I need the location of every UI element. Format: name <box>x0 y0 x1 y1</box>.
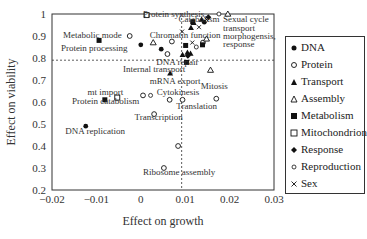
protein-point <box>127 34 132 39</box>
y-tick-label: 0.8 <box>32 52 46 64</box>
protein-point <box>141 93 146 98</box>
y-tick-label: 0.7 <box>32 74 46 86</box>
x-tick-label: 0 <box>138 193 144 205</box>
open-square-icon <box>290 129 298 137</box>
legend-item-mitochondrion: Mitochondrion <box>290 126 367 138</box>
y-tick-label: 0.3 <box>32 162 46 174</box>
dna-point <box>159 47 164 52</box>
protein-point <box>167 97 172 102</box>
sex-point <box>190 41 194 45</box>
assembly-point <box>150 40 156 45</box>
open-circle-icon <box>290 61 298 69</box>
x-tick-label: 0.01 <box>176 193 195 205</box>
metabolism-point <box>200 42 205 47</box>
annotations: Protein synthesisCatabolismSexual cyclet… <box>61 9 276 176</box>
y-tick-label: 0.2 <box>32 184 46 196</box>
point-annotation: Mitosis <box>201 81 229 91</box>
x-axis-label: Effect on growth <box>122 214 203 228</box>
y-tick-label: 0.9 <box>32 30 46 42</box>
y-tick-label: 0.4 <box>32 140 46 152</box>
x-tick-label: −0.01 <box>84 193 109 205</box>
point-annotation: Cytokinesis <box>157 87 200 97</box>
legend-item-sex: Sex <box>290 177 318 189</box>
reproduction-point <box>194 45 198 49</box>
point-annotation: Ribosome assembly <box>143 167 216 177</box>
point-annotation: Metabolic mode <box>63 30 122 40</box>
legend-item-reproduction: Reproduction <box>290 160 361 172</box>
x-mark-icon <box>290 180 298 188</box>
x-tick-label: 0.02 <box>220 193 239 205</box>
point-annotation: DNA replication <box>65 126 125 136</box>
open-triangle-icon <box>290 95 298 103</box>
legend-item-response: Response <box>290 143 343 155</box>
point-annotation: Protein processing <box>61 43 128 53</box>
y-axis-label: Effect on viability <box>4 58 18 145</box>
point-annotation: Chromatin function <box>150 30 221 40</box>
point-annotation: Translation <box>176 101 217 111</box>
y-tick-label: 1 <box>41 8 47 20</box>
point-annotation: Transcription <box>135 112 184 122</box>
assembly-point <box>208 67 214 72</box>
y-tick-label: 0.5 <box>32 118 46 130</box>
filled-square-icon <box>290 112 298 120</box>
legend-item-protein: Protein <box>290 58 333 70</box>
legend-item-assembly: Assembly <box>290 92 345 104</box>
legend-item-metabolism: Metabolism <box>290 109 354 121</box>
legend-item-transport: Transport <box>290 75 343 87</box>
dna-point <box>138 42 143 47</box>
point-annotation: mRNA export <box>150 76 201 86</box>
protein-point <box>176 144 181 149</box>
y-tick-label: 0.6 <box>32 96 46 108</box>
metabolism-point <box>183 43 188 48</box>
filled-triangle-icon <box>290 78 298 86</box>
x-tick-label: 0.03 <box>264 193 284 205</box>
filled-circle-icon <box>290 44 298 52</box>
point-annotation: Internal transport <box>123 64 186 74</box>
point-annotation: Protein catabolism <box>72 96 139 106</box>
sex-point <box>197 25 201 29</box>
filled-diamond-icon <box>290 146 298 154</box>
point-annotation: Catabolism <box>179 14 220 24</box>
legend-item-dna: DNA <box>290 41 325 53</box>
point-annotation: response <box>223 39 255 49</box>
legend: DNA Protein Transport Assembly Metabolis… <box>285 36 365 194</box>
reproduction-point <box>149 93 153 97</box>
small-open-circle-icon <box>290 163 298 171</box>
